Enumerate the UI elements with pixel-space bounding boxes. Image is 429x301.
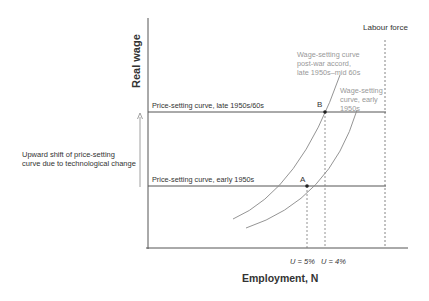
price-setting-lower-label: Price-setting curve, early 1950s [152, 175, 255, 184]
price-setting-upper-label: Price-setting curve, late 1950s/60s [152, 101, 264, 110]
wage-setting-postwar-label-1: Wage-setting curve [297, 50, 360, 59]
point-b-marker [323, 110, 327, 114]
point-a-marker [305, 184, 309, 188]
wage-setting-early-label-1: Wage-setting [340, 86, 383, 95]
shift-annotation-line-1: Upward shift of price-setting [22, 150, 115, 159]
wage-setting-postwar-label-3: late 1950s–mid 60s [297, 68, 361, 77]
labour-market-diagram: Real wage Labour force Price-setting cur… [0, 0, 429, 301]
labour-force-label: Labour force [363, 23, 408, 32]
wage-setting-early-label-2: curve, early [340, 95, 378, 104]
y-axis-label: Real wage [130, 34, 142, 88]
wage-setting-curve-early [246, 110, 357, 228]
point-b-label: B [317, 100, 322, 109]
wage-setting-early-label-3: 1950s [340, 104, 360, 113]
wage-setting-postwar-label-2: post-war accord, [297, 59, 351, 68]
point-a-label: A [300, 175, 306, 184]
shift-annotation-line-2: curve due to technological change [22, 159, 136, 168]
u5-label: U = 5% [290, 257, 315, 266]
x-axis-label: Employment, N [242, 272, 318, 284]
wage-setting-curve-postwar [233, 75, 340, 219]
u4-label: U = 4% [321, 257, 346, 266]
